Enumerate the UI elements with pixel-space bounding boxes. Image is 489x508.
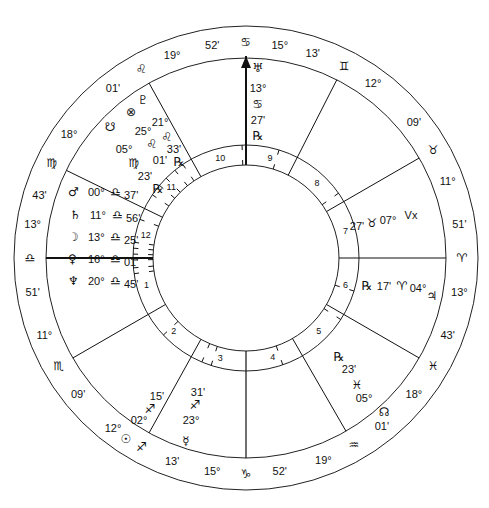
cusp-degree: 19°	[164, 49, 181, 61]
cusp-minutes: 13'	[165, 455, 179, 467]
saturn-icon: ♄	[70, 208, 81, 222]
svg-text:23': 23'	[342, 363, 356, 375]
house-number-12: 12	[141, 230, 151, 240]
house-number-2: 2	[171, 326, 176, 336]
svg-text:01': 01'	[153, 154, 167, 166]
house-number-9: 9	[268, 153, 273, 163]
svg-text:23': 23'	[138, 170, 152, 182]
planet-degree: 13°	[88, 231, 105, 243]
planet-minutes: 25'	[124, 234, 138, 246]
cusp-sign-icon: ♌	[136, 62, 147, 76]
planet-sign-icon: ♎	[112, 208, 123, 222]
svg-text:27': 27'	[350, 220, 364, 232]
cusp-degree: 18°	[406, 388, 423, 400]
svg-text:℞: ℞	[334, 350, 345, 364]
planet-minutes: 56'	[126, 212, 140, 224]
tick-mark	[166, 178, 170, 182]
svg-text:02°: 02°	[131, 414, 148, 426]
planet-degree: 20°	[88, 275, 105, 287]
planet-mars: ♂00°♎37'	[68, 185, 138, 201]
neptune-icon: ♆	[68, 274, 79, 288]
tick-mark	[276, 346, 278, 351]
tick-mark	[171, 195, 175, 198]
cusp-sign-icon: ♏	[54, 359, 65, 373]
tick-mark	[175, 170, 178, 174]
svg-text:℞: ℞	[362, 279, 373, 293]
pluto-icon: ♇	[138, 93, 149, 107]
planet-mercury: 31'♐23°☿	[182, 386, 205, 448]
cusp-degree: 11°	[36, 329, 52, 341]
cusp-sign-icon: ♑	[241, 467, 252, 481]
svg-text:31': 31'	[191, 386, 205, 398]
cusp-minutes: 52'	[273, 465, 287, 477]
planet-venus: ♀16°♎01'	[68, 252, 138, 268]
svg-text:℞: ℞	[174, 155, 185, 169]
tick-mark	[334, 193, 338, 196]
planet-degree: 16°	[88, 253, 105, 265]
cusp-minutes: 01'	[106, 82, 120, 94]
cusp-label-8: 11°♉09'	[407, 116, 456, 187]
svg-text:21°: 21°	[152, 116, 169, 128]
svg-text:♐: ♐	[190, 398, 201, 412]
cusp-degree: 15°	[271, 39, 288, 51]
svg-text:♓: ♓	[352, 378, 363, 392]
cusp-minutes: 01'	[375, 420, 389, 432]
tick-mark	[149, 271, 154, 272]
svg-text:♌: ♌	[147, 137, 158, 151]
north-node-icon: ☊	[379, 405, 390, 419]
svg-text:♉: ♉	[367, 216, 378, 230]
cusp-label-11: 19°♌01'	[106, 49, 181, 94]
svg-text:27': 27'	[251, 114, 265, 126]
planet-sign-icon: ♎	[110, 252, 121, 266]
planet-sign-icon: ♎	[110, 185, 121, 199]
cusp-minutes: 52'	[205, 39, 219, 51]
mars-icon: ♂	[68, 185, 79, 199]
tick-mark	[278, 150, 279, 155]
planet-degree: 00°	[88, 186, 105, 198]
planet-minutes: 01'	[124, 256, 138, 268]
planet-north-node: ℞23'♓05°☊	[334, 350, 390, 419]
house-number-8: 8	[314, 178, 319, 188]
planet-vertex: 27'♉07°Vx	[350, 209, 418, 232]
planet-jupiter: ℞17'♈04°♃	[362, 279, 438, 303]
cusp-degree: 11°	[440, 175, 456, 187]
venus-icon: ♀	[68, 252, 77, 266]
tick-mark	[202, 357, 204, 362]
house-number-6: 6	[343, 280, 348, 290]
cusp-sign-icon: ♈	[457, 251, 468, 265]
house-number-11: 11	[167, 182, 176, 192]
mercury-icon: ☿	[182, 434, 189, 448]
cusp-minutes: 09'	[407, 116, 421, 128]
cusp-degree: 12°	[365, 77, 382, 89]
svg-text:15': 15'	[150, 390, 164, 402]
jupiter-icon: ♃	[427, 289, 438, 303]
svg-text:♌: ♌	[162, 130, 173, 144]
svg-text:♋: ♋	[253, 97, 264, 111]
planet-degree: 11°	[90, 209, 106, 221]
cusp-minutes: 13'	[306, 47, 320, 59]
cusp-sign-icon: ♎	[25, 251, 36, 265]
svg-text:07°: 07°	[380, 214, 397, 226]
tick-mark	[208, 344, 210, 349]
cusp-label-7: 13°♈51'	[451, 218, 468, 298]
tick-mark	[184, 182, 187, 186]
cusp-minutes: 43'	[440, 329, 454, 341]
part-of-fortune-icon: ⊗	[126, 105, 136, 119]
svg-text:17': 17'	[377, 280, 391, 292]
tick-mark	[149, 244, 154, 245]
tick-mark	[154, 224, 159, 226]
svg-text:33': 33'	[167, 143, 181, 155]
tick-mark	[273, 164, 274, 169]
cusp-sign-icon: ♉	[428, 143, 439, 157]
planet-moon: ☽13°♎25'	[68, 230, 138, 246]
cusp-label-10: 15°♋52'	[205, 35, 288, 51]
planet-sign-icon: ♎	[110, 230, 121, 244]
svg-text:13°: 13°	[250, 82, 267, 94]
cusp-line-2	[73, 305, 166, 359]
tick-mark	[337, 317, 341, 320]
cusp-minutes: 43'	[32, 189, 46, 201]
tick-mark	[211, 361, 213, 366]
tick-mark	[349, 290, 354, 291]
svg-text:25°: 25°	[135, 125, 152, 137]
cusp-line-9	[288, 80, 337, 175]
